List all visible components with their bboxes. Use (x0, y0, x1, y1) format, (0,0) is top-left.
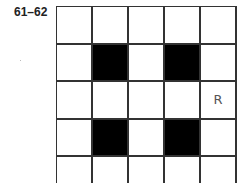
grid-cell[interactable] (129, 45, 165, 83)
grid-cell[interactable] (201, 45, 237, 83)
grid-cell[interactable] (129, 157, 165, 183)
grid-cell[interactable] (93, 7, 129, 45)
grid-cell-black[interactable] (165, 45, 201, 83)
grid-cell[interactable] (93, 157, 129, 183)
grid-cell[interactable] (165, 7, 201, 45)
puzzle-grid: R (56, 6, 237, 183)
grid-cell[interactable] (57, 45, 93, 83)
grid-cell-black[interactable] (93, 45, 129, 83)
grid-cell[interactable] (57, 7, 93, 45)
grid-cell[interactable] (165, 82, 201, 120)
grid-cell[interactable] (57, 120, 93, 158)
grid-cell[interactable] (201, 157, 237, 183)
grid-cell[interactable] (201, 7, 237, 45)
grid-cell[interactable] (57, 82, 93, 120)
puzzle-number-label: 61–62 (14, 5, 47, 19)
grid-cell[interactable] (129, 7, 165, 45)
grid-cell-black[interactable] (93, 120, 129, 158)
grid-cell[interactable] (165, 157, 201, 183)
grid-cell[interactable] (129, 120, 165, 158)
grid-cell-black[interactable] (165, 120, 201, 158)
grid-cell[interactable] (129, 82, 165, 120)
grid-cell[interactable] (93, 82, 129, 120)
cell-mark: R (213, 92, 222, 107)
grid-cell[interactable] (57, 157, 93, 183)
grid-cell[interactable]: R (201, 82, 237, 120)
grid-cell[interactable] (201, 120, 237, 158)
stray-dot (20, 60, 21, 61)
